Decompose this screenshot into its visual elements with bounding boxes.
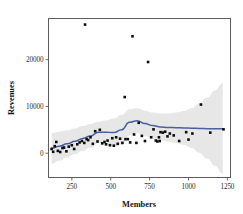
data-point bbox=[172, 134, 175, 137]
data-point bbox=[150, 136, 153, 139]
chart-figure: 25050075010001250 01000020000 Members Re… bbox=[0, 0, 243, 214]
x-axis-title: Members bbox=[122, 200, 157, 209]
data-point bbox=[71, 144, 74, 147]
data-point bbox=[124, 138, 127, 141]
data-point bbox=[164, 130, 167, 133]
data-point bbox=[187, 138, 190, 141]
data-point bbox=[135, 142, 138, 145]
data-point bbox=[105, 143, 108, 146]
data-point bbox=[94, 130, 97, 133]
data-point bbox=[53, 145, 56, 148]
data-point bbox=[169, 132, 172, 135]
data-point bbox=[152, 128, 155, 131]
data-point bbox=[63, 146, 66, 149]
data-point bbox=[103, 141, 106, 144]
data-point bbox=[84, 23, 87, 26]
data-point bbox=[87, 139, 90, 142]
data-point bbox=[127, 138, 130, 141]
y-tick-label: 10000 bbox=[26, 103, 44, 111]
x-tick-label: 1000 bbox=[182, 183, 196, 191]
x-tick-label: 250 bbox=[67, 183, 78, 191]
data-point bbox=[52, 150, 55, 153]
data-point bbox=[141, 135, 144, 138]
data-point bbox=[101, 142, 104, 145]
scatter-plot-svg: 25050075010001250 01000020000 Members Re… bbox=[0, 0, 243, 214]
data-point bbox=[158, 136, 161, 139]
data-point bbox=[99, 129, 102, 132]
data-point bbox=[116, 143, 119, 146]
data-point bbox=[144, 140, 147, 143]
data-point bbox=[113, 144, 116, 147]
data-point bbox=[185, 131, 188, 134]
data-point bbox=[156, 140, 159, 143]
data-point bbox=[81, 140, 84, 143]
data-point bbox=[147, 61, 150, 64]
data-point bbox=[111, 137, 114, 140]
data-point bbox=[119, 137, 122, 140]
data-point bbox=[50, 148, 53, 151]
data-point bbox=[115, 136, 118, 139]
data-point bbox=[191, 132, 194, 135]
x-tick-label: 1250 bbox=[220, 183, 234, 191]
data-point bbox=[57, 150, 60, 153]
data-point bbox=[65, 150, 68, 153]
data-point bbox=[162, 131, 165, 134]
data-point bbox=[222, 128, 225, 131]
data-point bbox=[55, 141, 58, 144]
data-point bbox=[89, 136, 92, 139]
data-point bbox=[200, 103, 203, 106]
data-point bbox=[67, 145, 70, 148]
x-tick-label: 500 bbox=[105, 183, 116, 191]
data-point bbox=[178, 140, 181, 143]
data-point bbox=[83, 142, 86, 145]
data-point bbox=[59, 151, 62, 154]
data-point bbox=[76, 143, 79, 146]
data-point bbox=[121, 142, 124, 145]
data-point bbox=[109, 144, 112, 147]
y-tick-label: 20000 bbox=[26, 56, 44, 64]
x-tick-label: 750 bbox=[144, 183, 155, 191]
data-point bbox=[92, 143, 95, 146]
y-tick-label: 0 bbox=[40, 150, 44, 158]
data-point bbox=[129, 141, 132, 144]
data-point bbox=[73, 148, 76, 151]
data-point bbox=[96, 140, 99, 143]
data-point bbox=[158, 140, 161, 143]
data-point bbox=[137, 121, 140, 124]
y-axis-title: Revenues bbox=[7, 80, 16, 115]
data-point bbox=[166, 135, 169, 138]
data-point bbox=[106, 139, 109, 142]
data-point bbox=[78, 141, 81, 144]
data-point bbox=[159, 131, 162, 134]
y-axis-ticks: 01000020000 bbox=[26, 56, 48, 158]
data-point bbox=[133, 133, 136, 136]
data-point bbox=[209, 131, 212, 134]
x-axis-ticks: 25050075010001250 bbox=[67, 178, 235, 191]
data-point bbox=[123, 96, 126, 99]
data-point bbox=[131, 35, 134, 38]
